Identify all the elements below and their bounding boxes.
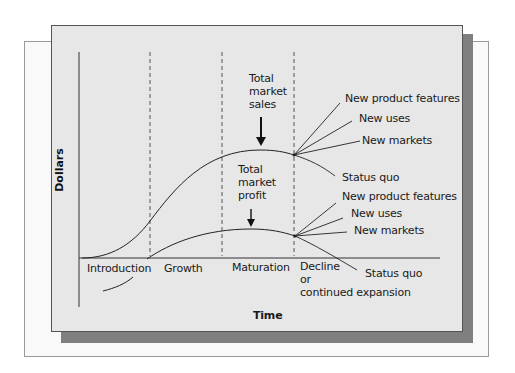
annotation-line: market xyxy=(238,176,276,189)
stage-introduction-label: Introduction xyxy=(87,262,151,275)
sales-branch-status-quo xyxy=(294,155,335,176)
x-axis-label: Time xyxy=(253,309,282,322)
y-axis-label: Dollars xyxy=(53,148,66,192)
annotation-line: profit xyxy=(238,189,276,202)
sales-branch-uses xyxy=(294,121,352,155)
profit-branch-features xyxy=(295,203,336,236)
stage-decline-line: or xyxy=(300,273,411,286)
sales-branch-markets-label: New markets xyxy=(362,134,432,147)
profit-branch-features-label: New product features xyxy=(342,190,457,203)
stage-decline-line: Decline xyxy=(300,260,411,273)
profit-curve-negative xyxy=(103,277,133,291)
profit-annotation: Total market profit xyxy=(238,163,276,202)
profit-branch-markets-label: New markets xyxy=(354,224,424,237)
profit-arrow-icon xyxy=(247,209,255,227)
sales-branch-uses-label: New uses xyxy=(359,112,410,125)
sales-annotation: Total market sales xyxy=(249,72,287,111)
sales-branch-status-quo-label: Status quo xyxy=(342,171,399,184)
annotation-line: Total xyxy=(238,163,276,176)
stage-decline-label: Decline or continued expansion xyxy=(300,260,411,299)
profit-curve xyxy=(147,229,295,259)
sales-branch-features xyxy=(294,103,340,155)
annotation-line: market xyxy=(249,85,287,98)
annotation-line: sales xyxy=(249,98,287,111)
sales-arrow-icon xyxy=(256,117,266,146)
sales-branch-markets xyxy=(294,141,360,155)
stage-decline-line: continued expansion xyxy=(300,286,411,299)
annotation-line: Total xyxy=(249,72,287,85)
stage-growth-label: Growth xyxy=(164,262,203,275)
profit-branch-uses-label: New uses xyxy=(351,207,402,220)
stage-maturation-label: Maturation xyxy=(232,261,290,274)
sales-branch-features-label: New product features xyxy=(345,92,460,105)
